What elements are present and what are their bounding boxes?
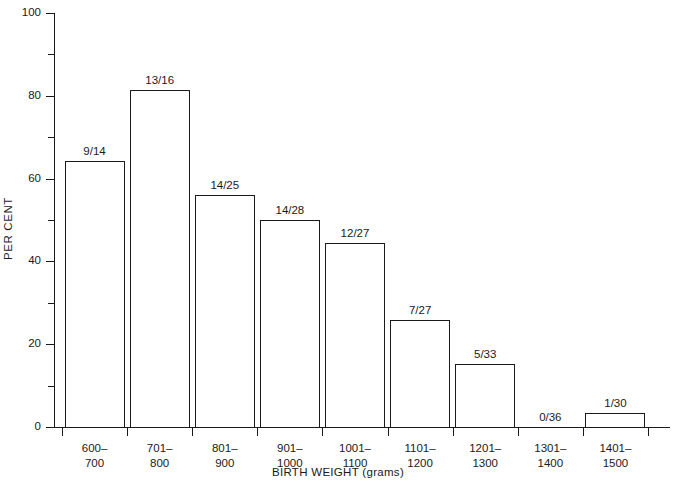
- y-tick-label: 40: [28, 254, 41, 266]
- bar-value-label: 14/28: [260, 204, 320, 216]
- bar: [260, 220, 320, 427]
- y-tick-label: 100: [22, 6, 41, 18]
- bar: [390, 320, 450, 427]
- y-tick-minor: [48, 220, 54, 221]
- x-category-label-line: 600–: [62, 441, 127, 456]
- x-tick: [518, 428, 519, 436]
- bar-chart-figure: PER CENT 020406080100 9/1413/1614/2514/2…: [0, 0, 676, 490]
- y-tick-major: 60: [46, 179, 54, 180]
- bar-value-label: 7/27: [390, 304, 450, 316]
- x-tick: [388, 428, 389, 436]
- y-tick-label: 20: [28, 337, 41, 349]
- y-tick-label: 0: [35, 420, 41, 432]
- bar-value-label: 5/33: [455, 348, 515, 360]
- y-tick-minor: [48, 137, 54, 138]
- x-category-label-line: 1301–: [518, 441, 583, 456]
- x-category-label-line: 1001–: [322, 441, 387, 456]
- x-tick: [453, 428, 454, 436]
- bar: [455, 364, 515, 427]
- y-tick-major: 20: [46, 344, 54, 345]
- y-tick-minor: [48, 54, 54, 55]
- x-tick: [322, 428, 323, 436]
- y-tick-major: 100: [46, 13, 54, 14]
- y-tick-major: 0: [46, 427, 54, 428]
- bar: [585, 413, 645, 427]
- y-tick-label: 60: [28, 172, 41, 184]
- bar: [325, 243, 385, 427]
- x-axis-line: [54, 427, 670, 428]
- y-tick-major: 40: [46, 261, 54, 262]
- x-category-label-line: 801–: [192, 441, 257, 456]
- bar-value-label: 1/30: [585, 397, 645, 409]
- x-tick: [583, 428, 584, 436]
- x-tick: [257, 428, 258, 436]
- x-category-label-line: 1201–: [453, 441, 518, 456]
- y-axis-title: PER CENT: [2, 240, 14, 260]
- x-tick: [192, 428, 193, 436]
- x-axis-title: BIRTH WEIGHT (grams): [0, 466, 676, 478]
- x-tick: [648, 428, 649, 436]
- bar-value-label: 12/27: [325, 227, 385, 239]
- y-tick-minor: [48, 303, 54, 304]
- bar-value-label: 14/25: [195, 179, 255, 191]
- bar-value-label: 0/36: [520, 411, 580, 423]
- x-tick: [62, 428, 63, 436]
- bar: [195, 195, 255, 427]
- y-tick-major: 80: [46, 96, 54, 97]
- x-category-label-line: 1401–: [583, 441, 648, 456]
- bar: [65, 161, 125, 427]
- bar: [130, 90, 190, 427]
- x-category-label-line: 1101–: [388, 441, 453, 456]
- x-tick: [127, 428, 128, 436]
- y-tick-label: 80: [28, 89, 41, 101]
- x-category-label-line: 901–: [257, 441, 322, 456]
- x-category-label-line: 701–: [127, 441, 192, 456]
- bar-value-label: 9/14: [65, 145, 125, 157]
- y-axis-line: [54, 13, 55, 428]
- y-tick-minor: [48, 386, 54, 387]
- bar-value-label: 13/16: [130, 74, 190, 86]
